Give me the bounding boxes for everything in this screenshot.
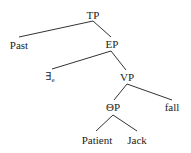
node-exists-e: ∃e: [45, 71, 54, 84]
tree-edges: [0, 0, 191, 153]
edge-vp-fall: [127, 84, 172, 100]
node-ep: EP: [106, 39, 119, 50]
node-past: Past: [10, 40, 28, 51]
node-vp: VP: [120, 72, 134, 83]
edge-vp-thetap: [114, 84, 127, 100]
node-patient: Patient: [82, 135, 113, 146]
node-thetap: ΘP: [106, 102, 120, 113]
exists-subscript: e: [51, 76, 54, 84]
edge-ep-vp: [111, 51, 126, 70]
node-jack: Jack: [127, 135, 147, 146]
node-tp: TP: [87, 10, 100, 21]
edge-ep-exists: [52, 51, 111, 69]
edge-thetap-patient: [96, 115, 113, 131]
syntax-tree: TP Past EP ∃e VP ΘP fall Patient Jack: [0, 0, 191, 153]
edge-tp-past: [19, 21, 93, 37]
edge-tp-ep: [93, 21, 111, 37]
node-fall: fall: [165, 102, 180, 113]
edge-thetap-jack: [113, 115, 137, 131]
